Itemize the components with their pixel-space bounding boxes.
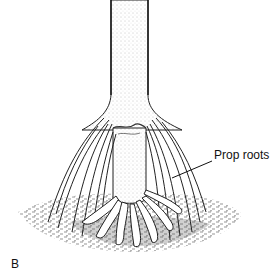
prop-roots-illustration: Prop roots B (0, 0, 279, 276)
tree-trunk (82, 0, 182, 203)
panel-letter: B (11, 257, 19, 271)
tree-drawing (0, 0, 279, 276)
prop-roots-label: Prop roots (214, 148, 269, 162)
